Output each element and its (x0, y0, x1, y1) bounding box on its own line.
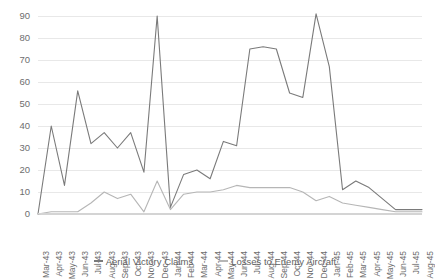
y-axis-tick-label: 40 (19, 121, 30, 131)
y-axis-tick-label: 90 (19, 11, 30, 21)
x-axis-line (38, 213, 422, 214)
legend-item-label: Aerial Victory Claims (106, 256, 193, 267)
y-axis-tick-label: 50 (19, 99, 30, 109)
legend-item[interactable]: Losses to Enemy Aircraft (219, 256, 336, 267)
y-axis-tick-label: 30 (19, 143, 30, 153)
legend-color-swatch (219, 260, 228, 262)
series-container (38, 16, 422, 214)
y-axis-tick-label: 70 (19, 55, 30, 65)
y-axis-tick-label: 80 (19, 33, 30, 43)
y-axis-tick-label: 10 (19, 187, 30, 197)
y-axis-tick-label: 60 (19, 77, 30, 87)
legend-color-swatch (94, 260, 103, 262)
y-axis: 0102030405060708090 (0, 0, 34, 230)
legend-item[interactable]: Aerial Victory Claims (94, 256, 193, 267)
series-line (38, 181, 422, 214)
y-axis-tick-label: 0 (25, 209, 30, 219)
y-axis-tick-label: 20 (19, 165, 30, 175)
legend-item-label: Losses to Enemy Aircraft (231, 256, 336, 267)
plot-area (38, 16, 422, 214)
series-line (38, 14, 422, 214)
chart-legend: Aerial Victory ClaimsLosses to Enemy Air… (0, 252, 430, 270)
x-axis: Mar-43Apr-43May-43Jun-43Jul-43Aug-43Sep-… (38, 215, 422, 255)
